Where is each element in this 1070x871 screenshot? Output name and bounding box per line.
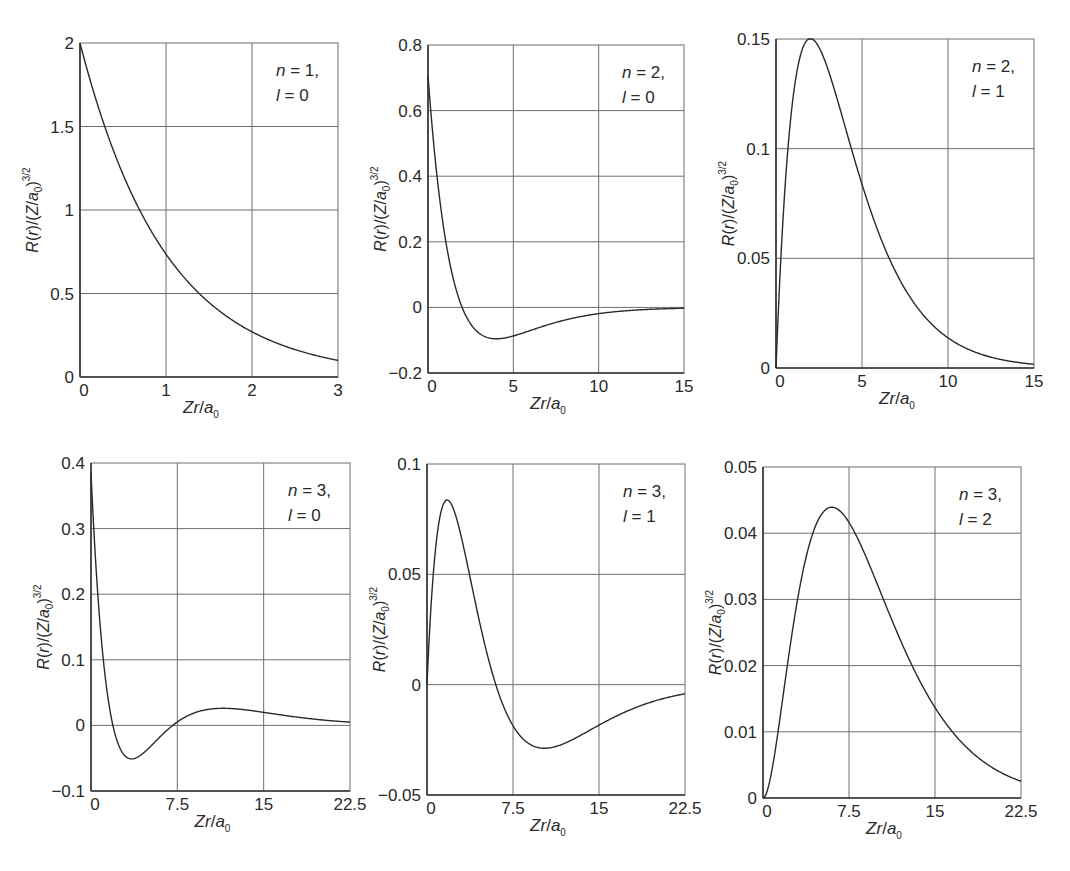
curve-R31 <box>427 500 685 748</box>
y-tick-label: 0.8 <box>398 36 422 55</box>
x-tick-label: 5 <box>857 372 866 391</box>
x-tick-label: 0 <box>90 795 99 814</box>
x-tick-label: 22.5 <box>668 799 701 818</box>
y-tick-label: 0.1 <box>746 140 770 159</box>
x-tick-label: 0 <box>427 377 436 396</box>
x-tick-label: 0 <box>426 799 435 818</box>
y-tick-label: 0.03 <box>724 590 757 609</box>
x-axis-label: Zr/a0 <box>878 389 915 411</box>
annotation-n: n = 3, <box>959 485 1002 504</box>
x-axis-label: Zr/a0 <box>182 398 219 420</box>
y-tick-label: 0 <box>761 359 770 378</box>
annotation-l: l = 0 <box>622 88 655 107</box>
annotation-l: l = 2 <box>959 510 992 529</box>
x-tick-label: 7.5 <box>501 799 525 818</box>
x-tick-label: 15 <box>926 802 945 821</box>
y-tick-label: 0.2 <box>398 233 422 252</box>
annotation-n: n = 3, <box>288 481 331 500</box>
radial-wavefunction-figure: 012300.511.52Zr/a0R(r)/(Z/a0)3/2n = 1,l … <box>0 0 1070 871</box>
y-tick-label: 1.5 <box>50 118 74 137</box>
y-tick-label: 0.01 <box>724 723 757 742</box>
y-tick-label: 1 <box>65 201 74 220</box>
x-tick-label: 0 <box>775 372 784 391</box>
y-tick-label: 0.05 <box>388 565 421 584</box>
panel-n2l1: 05101500.050.10.15Zr/a0R(r)/(Z/a0)3/2n =… <box>717 30 1043 411</box>
panel-n3l1: 07.51522.5−0.0500.050.1Zr/a0R(r)/(Z/a0)3… <box>368 455 702 838</box>
panel-n3l0: 07.51522.5−0.100.10.20.30.4Zr/a0R(r)/(Z/… <box>32 454 367 834</box>
annotation-l: l = 0 <box>276 86 309 105</box>
y-tick-label: 0 <box>76 716 85 735</box>
x-tick-label: 5 <box>509 377 518 396</box>
annotation-l: l = 0 <box>288 506 321 525</box>
y-tick-label: 0.1 <box>397 455 421 474</box>
y-tick-label: 0.15 <box>737 30 770 49</box>
x-tick-label: 10 <box>939 372 958 391</box>
x-tick-label: 15 <box>1025 372 1044 391</box>
y-axis-label: R(r)/(Z/a0)3/2 <box>369 166 392 252</box>
y-tick-label: 0 <box>748 789 757 808</box>
y-tick-label: 0.1 <box>61 651 85 670</box>
x-tick-label: 1 <box>161 381 170 400</box>
y-tick-label: 0.5 <box>50 285 74 304</box>
y-tick-label: −0.05 <box>378 786 421 805</box>
curve-R32 <box>763 507 1021 798</box>
y-tick-label: 0.2 <box>61 585 85 604</box>
y-axis-label: R(r)/(Z/a0)3/2 <box>717 160 740 246</box>
annotation-n: n = 2, <box>972 57 1015 76</box>
y-tick-label: 0.3 <box>61 520 85 539</box>
y-tick-label: 2 <box>65 34 74 53</box>
x-tick-label: 10 <box>589 377 608 396</box>
annotation-l: l = 1 <box>972 82 1005 101</box>
y-tick-label: 0.04 <box>724 524 757 543</box>
x-tick-label: 7.5 <box>166 795 190 814</box>
y-axis-label: R(r)/(Z/a0)3/2 <box>32 584 55 670</box>
panel-n1l0: 012300.511.52Zr/a0R(r)/(Z/a0)3/2n = 1,l … <box>21 34 343 420</box>
y-tick-label: 0.4 <box>61 454 85 473</box>
y-tick-label: 0.6 <box>398 102 422 121</box>
y-tick-label: 0.05 <box>737 249 770 268</box>
y-tick-label: −0.1 <box>51 782 85 801</box>
y-tick-label: 0.02 <box>724 657 757 676</box>
panel-n3l2: 07.51522.500.010.020.030.040.05Zr/a0R(r)… <box>704 458 1038 841</box>
curve-R20 <box>428 75 684 338</box>
x-tick-label: 0 <box>762 802 771 821</box>
x-tick-label: 7.5 <box>837 802 861 821</box>
y-tick-label: 0 <box>65 368 74 387</box>
y-tick-label: 0.05 <box>724 458 757 477</box>
x-axis-label: Zr/a0 <box>529 394 566 416</box>
y-tick-label: 0 <box>412 676 421 695</box>
x-tick-label: 15 <box>590 799 609 818</box>
annotation-n: n = 3, <box>623 482 666 501</box>
panel-n2l0: 051015−0.200.20.40.60.8Zr/a0R(r)/(Z/a0)3… <box>369 36 693 416</box>
x-tick-label: 15 <box>675 377 694 396</box>
annotation-n: n = 2, <box>622 63 665 82</box>
y-tick-label: −0.2 <box>388 364 422 383</box>
x-axis-label: Zr/a0 <box>865 819 902 841</box>
x-tick-label: 15 <box>254 795 273 814</box>
annotation-n: n = 1, <box>276 61 319 80</box>
x-tick-label: 22.5 <box>1004 802 1037 821</box>
y-axis-label: R(r)/(Z/a0)3/2 <box>21 167 44 253</box>
x-tick-label: 2 <box>247 381 256 400</box>
x-tick-label: 22.5 <box>333 795 366 814</box>
x-tick-label: 0 <box>79 381 88 400</box>
x-axis-label: Zr/a0 <box>194 812 231 834</box>
x-tick-label: 3 <box>333 381 342 400</box>
x-axis-label: Zr/a0 <box>529 816 566 838</box>
annotation-l: l = 1 <box>623 507 656 526</box>
y-axis-label: R(r)/(Z/a0)3/2 <box>368 586 391 672</box>
y-tick-label: 0 <box>413 298 422 317</box>
y-tick-label: 0.4 <box>398 167 422 186</box>
